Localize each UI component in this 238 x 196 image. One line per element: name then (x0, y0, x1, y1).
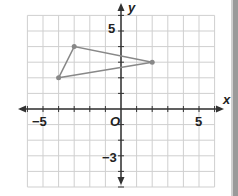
y-axis-label: y (127, 0, 136, 15)
x-axis-arrow-left (18, 106, 26, 113)
x-tick-label-neg5: −5 (32, 114, 47, 129)
coordinate-plane: y x O −5 5 5 −3 (0, 0, 238, 196)
x-tick-label-5: 5 (195, 114, 202, 129)
origin-label: O (110, 114, 120, 129)
y-tick-label-5: 5 (108, 21, 115, 36)
vertex-point (56, 75, 61, 80)
vertex-point (72, 44, 77, 49)
y-axis-arrow-down (118, 177, 125, 185)
y-tick-label-neg3: −3 (102, 150, 117, 165)
vertex-point (150, 60, 155, 65)
x-axis-label: x (222, 92, 231, 107)
y-axis-arrow-up (118, 3, 125, 11)
